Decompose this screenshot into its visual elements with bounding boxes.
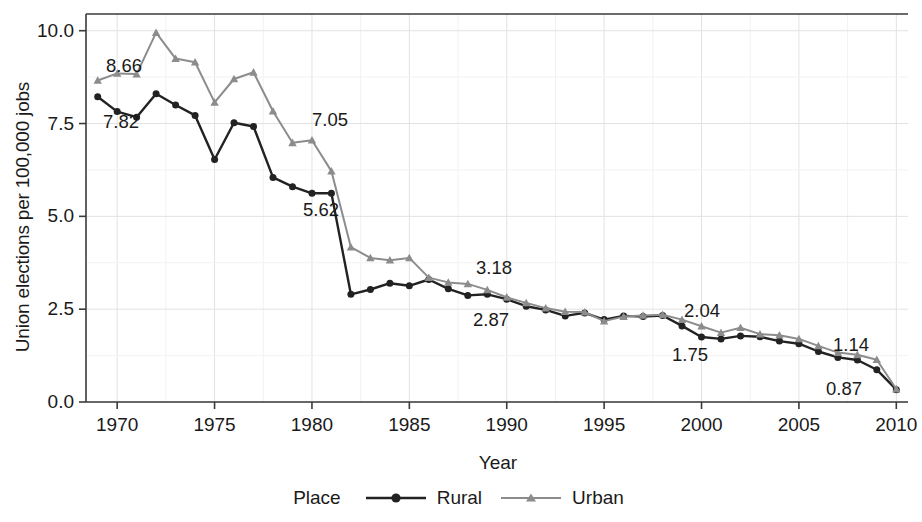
x-axis-label: Year xyxy=(80,452,916,474)
point-label-7-05: 7.05 xyxy=(312,109,348,131)
legend-label-urban: Urban xyxy=(572,487,624,509)
x-tick-label: 2005 xyxy=(764,414,834,436)
legend-key-rural xyxy=(365,490,427,506)
x-tick-label: 1990 xyxy=(472,414,542,436)
x-tick-label: 1975 xyxy=(180,414,250,436)
legend-item-urban[interactable]: Urban xyxy=(500,487,624,509)
point-label-5-62: 5.62 xyxy=(303,199,339,221)
point-label-1-75: 1.75 xyxy=(672,344,708,366)
point-label-2-04: 2.04 xyxy=(684,300,720,322)
legend-item-rural[interactable]: Rural xyxy=(365,487,482,509)
chart-legend: Place Rural Urban xyxy=(0,487,917,509)
x-tick-label: 2010 xyxy=(861,414,922,436)
point-label-3-18: 3.18 xyxy=(476,257,512,279)
point-label-2-87: 2.87 xyxy=(473,309,509,331)
point-label-7-82: 7.82 xyxy=(103,111,139,133)
point-label-8-66: 8.66 xyxy=(106,55,142,77)
x-tick-label: 1985 xyxy=(374,414,444,436)
legend-key-urban xyxy=(500,490,562,506)
x-tick-label: 1995 xyxy=(569,414,639,436)
point-label-1-14: 1.14 xyxy=(833,334,869,356)
legend-title: Place xyxy=(293,487,341,509)
legend-label-rural: Rural xyxy=(437,487,482,509)
point-label-0-87: 0.87 xyxy=(826,378,862,400)
x-tick-label: 1970 xyxy=(82,414,152,436)
x-tick-label: 2000 xyxy=(667,414,737,436)
x-tick-label: 1980 xyxy=(277,414,347,436)
